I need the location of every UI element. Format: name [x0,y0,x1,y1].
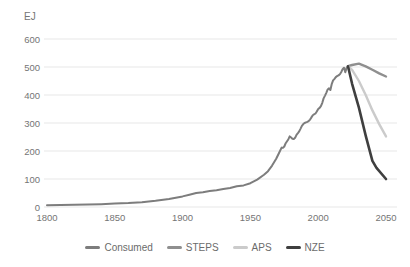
y-axis-unit-label: EJ [24,11,36,22]
legend-label: NZE [305,242,325,253]
y-tick-label: 500 [6,62,40,73]
legend-item-consumed: Consumed [85,242,152,253]
y-tick-label: 100 [6,174,40,185]
legend-marker-aps [233,246,248,249]
y-tick-label: 400 [6,90,40,101]
series-line-aps [348,66,386,136]
x-tick-label: 2050 [366,212,406,223]
legend-item-aps: APS [233,242,272,253]
legend-label: APS [252,242,272,253]
chart-legend: ConsumedSTEPSAPSNZE [0,242,410,253]
y-tick-label: 200 [6,146,40,157]
y-tick-label: 300 [6,118,40,129]
x-tick-label: 1950 [230,212,270,223]
chart-plot-area [0,0,410,267]
legend-label: Consumed [104,242,152,253]
legend-marker-consumed [85,246,100,249]
legend-item-nze: NZE [286,242,325,253]
energy-consumption-chart: EJ 6005004003002001000 18001850190019502… [0,0,410,267]
x-tick-label: 1800 [27,212,67,223]
x-tick-label: 1900 [163,212,203,223]
x-tick-label: 1850 [95,212,135,223]
legend-marker-steps [167,246,182,249]
x-tick-label: 2000 [298,212,338,223]
series-line-consumed [47,66,348,205]
y-tick-label: 600 [6,34,40,45]
legend-marker-nze [286,246,301,249]
legend-item-steps: STEPS [167,242,219,253]
legend-label: STEPS [186,242,219,253]
